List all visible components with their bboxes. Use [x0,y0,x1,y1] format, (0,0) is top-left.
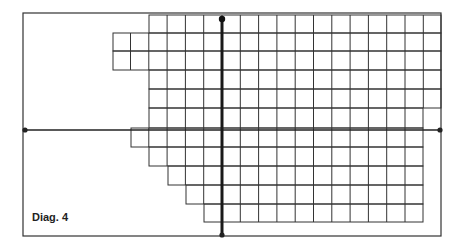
stepped-grid [113,15,441,222]
grid-row [149,108,423,128]
diagram-caption: Diag. 4 [32,211,68,223]
axis-endpoint-top-icon [219,16,225,22]
grid-diagram [0,0,465,252]
axis-endpoint-right-icon [437,127,442,132]
axis-endpoint-left-icon [22,127,27,132]
grid-row [149,147,423,166]
outer-frame [23,13,441,236]
axis-endpoint-bottom-icon [219,232,224,237]
